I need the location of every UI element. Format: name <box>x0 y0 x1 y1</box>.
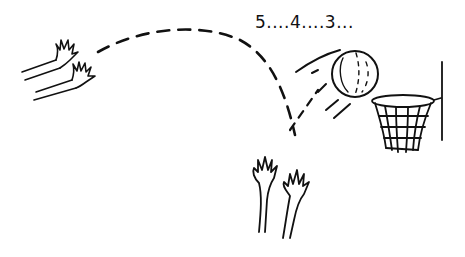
raised-hands-icon <box>253 157 309 238</box>
trajectory-arc <box>98 30 295 135</box>
basketball-sketch <box>0 0 465 257</box>
shooting-hands-icon <box>22 40 95 100</box>
basketball-icon <box>332 51 378 97</box>
hoop-icon <box>372 95 441 152</box>
bounce-dashes <box>290 90 318 130</box>
